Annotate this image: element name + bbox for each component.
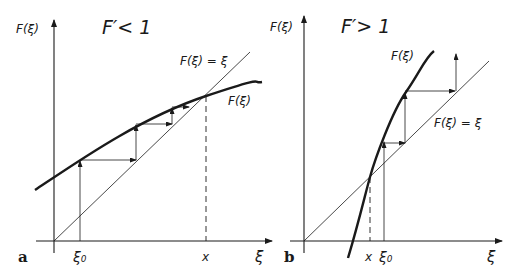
start-label-b: ξ₀ xyxy=(378,249,393,265)
curve-label-a: F(ξ) xyxy=(228,94,251,108)
fixed-point-label-b: x xyxy=(364,250,373,264)
fixed-point-label-a: x xyxy=(201,250,210,264)
start-label-a: ξ₀ xyxy=(72,249,87,265)
y-axis-label-b: F(ξ) xyxy=(270,20,293,34)
condition-label-a: F′< 1 xyxy=(102,16,151,38)
cobweb-iterations-b xyxy=(384,54,456,241)
diagonal-line-a xyxy=(54,52,250,241)
fixed-point-iteration-figure: F(ξ) F′< 1 F(ξ) = ξ F(ξ) a ξ₀ x ξ F(ξ) F… xyxy=(0,0,512,271)
panel-a: F(ξ) F′< 1 F(ξ) = ξ F(ξ) a ξ₀ x ξ xyxy=(16,16,272,266)
curve-label-b: F(ξ) xyxy=(391,49,414,63)
diagonal-label-b: F(ξ) = ξ xyxy=(434,116,482,130)
function-curve-b xyxy=(348,51,434,258)
panel-label-a: a xyxy=(18,248,28,266)
condition-label-b: F′> 1 xyxy=(341,15,390,37)
x-axis-label-a: ξ xyxy=(254,248,264,266)
diagonal-label-a: F(ξ) = ξ xyxy=(180,54,228,68)
diagonal-line-b xyxy=(304,61,489,241)
y-axis-label-a: F(ξ) xyxy=(16,22,39,36)
x-axis-label-b: ξ xyxy=(486,248,496,266)
panel-label-b: b xyxy=(284,248,295,266)
panel-b: F(ξ) F′> 1 F(ξ) F(ξ) = ξ b x ξ₀ ξ xyxy=(270,15,502,266)
